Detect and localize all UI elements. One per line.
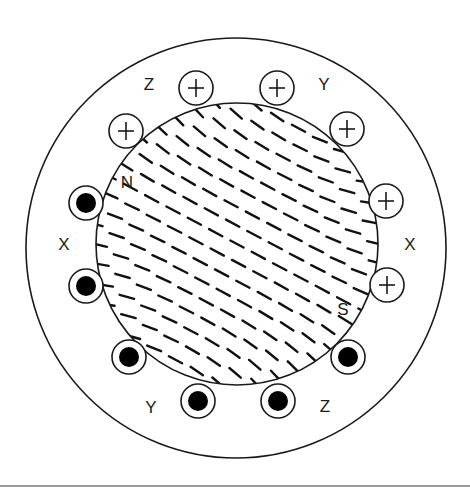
- field-line-dash: [166, 207, 179, 214]
- field-line-dash: [317, 305, 330, 313]
- field-line-dash: [326, 237, 340, 243]
- stator-outer-circle: [26, 38, 446, 458]
- field-line-dash: [184, 327, 197, 334]
- field-line-dash: [286, 343, 298, 352]
- field-line-dash: [183, 197, 196, 204]
- field-line-dash: [141, 306, 155, 311]
- field-line-dash: [238, 300, 251, 307]
- field-line-dash: [314, 156, 328, 161]
- field-line-dash: [320, 197, 334, 202]
- field-line-dash: [194, 126, 206, 136]
- field-line-dash: [299, 185, 313, 191]
- field-line-dash: [121, 314, 136, 318]
- conductor-z-dot-2: [261, 384, 295, 418]
- rotating-field-diagram: ZYXXYZNS: [0, 0, 470, 487]
- field-line-dash: [198, 148, 210, 157]
- conductor-z-dot-1: [331, 340, 365, 374]
- field-line-dash: [131, 244, 145, 250]
- field-line-dash: [164, 336, 178, 342]
- label-s-pole: S: [337, 301, 348, 318]
- field-line-dash: [259, 311, 272, 319]
- field-line-dash: [241, 191, 254, 198]
- field-line-dash: [311, 265, 325, 272]
- field-line-dash: [271, 113, 283, 121]
- diagram-canvas: [0, 0, 470, 487]
- field-line-dash: [206, 338, 219, 346]
- field-line-dash: [125, 204, 139, 210]
- field-line-dash: [141, 174, 154, 182]
- field-line-dash: [293, 144, 306, 151]
- field-line-dash: [178, 287, 191, 294]
- label-z-top: Z: [144, 76, 154, 93]
- field-line-dash: [342, 209, 356, 213]
- field-line-dash: [140, 154, 152, 163]
- field-line-dash: [281, 322, 294, 330]
- dot-icon: [76, 193, 96, 213]
- field-line-dash: [310, 246, 324, 252]
- field-line-dash: [261, 183, 274, 190]
- field-line-dash: [266, 351, 278, 361]
- field-line-dash: [304, 206, 318, 212]
- field-line-dash: [203, 189, 216, 196]
- field-line-dash: [100, 304, 115, 306]
- field-line-dash: [290, 254, 303, 261]
- field-line-dash: [225, 200, 238, 207]
- field-line-dash: [331, 257, 345, 263]
- field-line-dash: [253, 271, 266, 278]
- field-line-dash: [115, 274, 129, 278]
- field-line-dash: [200, 298, 213, 305]
- field-line-dash: [277, 154, 290, 161]
- field-line-dash: [246, 212, 259, 219]
- field-line-dash: [301, 314, 314, 322]
- field-line-dash: [209, 229, 222, 236]
- label-x-right: X: [404, 236, 415, 253]
- field-line-dash: [303, 333, 315, 342]
- field-line-dash: [236, 281, 249, 288]
- field-line-dash: [227, 349, 239, 358]
- dot-icon: [338, 347, 358, 367]
- conductor-z-plus-2: [109, 114, 143, 148]
- field-line-dash: [110, 233, 124, 238]
- field-line-dash: [234, 130, 246, 139]
- field-line-dash: [363, 221, 378, 224]
- field-line-dash: [278, 173, 291, 180]
- conductor-x-dot-1: [69, 186, 103, 220]
- field-line-dash: [229, 368, 240, 378]
- conductor-x-plus-1: [369, 184, 403, 218]
- conductor-y-dot-2: [181, 384, 215, 418]
- field-line-dash: [232, 260, 245, 267]
- field-line-dash: [201, 318, 214, 325]
- field-line-dash: [208, 357, 220, 366]
- field-line-dash: [316, 286, 329, 293]
- field-line-dash: [243, 321, 256, 329]
- conductor-x-plus-2: [370, 268, 404, 302]
- field-line-dash: [194, 258, 207, 265]
- field-line-dash: [172, 247, 185, 254]
- field-line-dash: [189, 237, 202, 244]
- label-z-bottom: Z: [320, 398, 330, 415]
- field-line-dash: [215, 138, 227, 147]
- field-line-dash: [199, 168, 212, 176]
- field-line-dash: [151, 236, 165, 242]
- field-line-dash: [88, 222, 103, 226]
- field-line-dash: [255, 142, 268, 150]
- field-line-dash: [215, 269, 228, 276]
- conductor-y-plus-1: [260, 71, 294, 105]
- field-line-dash: [251, 121, 263, 130]
- field-line-dash: [346, 229, 360, 233]
- field-line-dash: [191, 367, 203, 375]
- field-line-dash: [348, 248, 362, 253]
- field-line-dash: [354, 288, 368, 294]
- field-line-dash: [114, 254, 128, 258]
- field-line-dash: [258, 292, 271, 299]
- label-y-top: Y: [318, 76, 329, 93]
- field-line-dash: [205, 208, 218, 215]
- field-line-dash: [288, 361, 299, 372]
- field-line-dash: [319, 177, 333, 182]
- label-x-left: X: [58, 236, 69, 253]
- field-line-dash: [352, 269, 366, 274]
- field-line-dash: [223, 329, 236, 337]
- field-line-dash: [180, 307, 193, 314]
- field-line-dash: [178, 156, 191, 164]
- field-line-dash: [322, 325, 334, 334]
